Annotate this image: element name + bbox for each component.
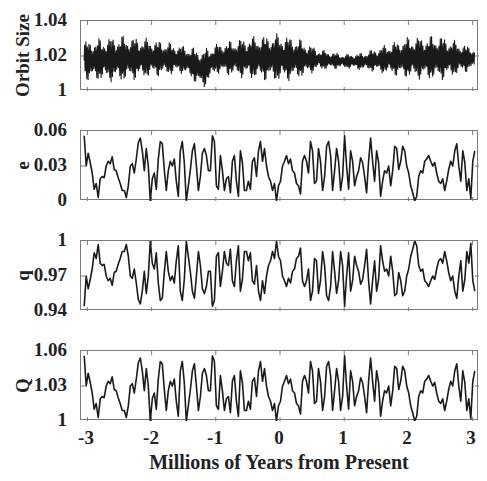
plot-perihelion-q [80, 240, 478, 310]
y-tick-label: 0.03 [34, 155, 67, 174]
x-tick-label: -2 [143, 428, 159, 447]
aphelion-line [81, 351, 479, 421]
x-tick-label: -3 [78, 428, 94, 447]
plot-eccentricity [80, 130, 478, 200]
x-tick-label: 0 [274, 428, 284, 447]
perihelion-line [81, 241, 479, 311]
orbit-size-line [81, 21, 479, 91]
y-tick-label: 1.02 [34, 45, 67, 64]
x-tick-label: 1 [338, 428, 348, 447]
eccentricity-line [81, 131, 479, 201]
y-tick-label: 0.97 [34, 265, 67, 284]
plot-aphelion-Q [80, 350, 478, 420]
y-axis-label-e: e [13, 156, 32, 176]
y-tick-label: 0 [58, 190, 68, 209]
plot-orbit-size [80, 20, 478, 90]
y-tick-label: 1.03 [34, 375, 67, 394]
y-tick-label: 0.94 [34, 300, 67, 319]
x-tick-label: 2 [402, 428, 412, 447]
y-tick-label: 1.06 [34, 340, 67, 359]
y-tick-label: 1 [58, 80, 68, 99]
x-tick-label: -1 [207, 428, 223, 447]
y-axis-label-Q: Q [13, 376, 32, 396]
y-tick-label: 1.04 [34, 10, 67, 29]
y-tick-label: 0.06 [34, 120, 67, 139]
y-tick-label: 1 [58, 230, 68, 249]
y-axis-label-orbit-size: Orbit Size [13, 6, 32, 106]
x-tick-label: 3 [466, 428, 476, 447]
x-axis-label: Millions of Years from Present [149, 452, 409, 472]
y-tick-label: 1 [58, 410, 68, 429]
y-axis-label-q: q [13, 266, 32, 286]
